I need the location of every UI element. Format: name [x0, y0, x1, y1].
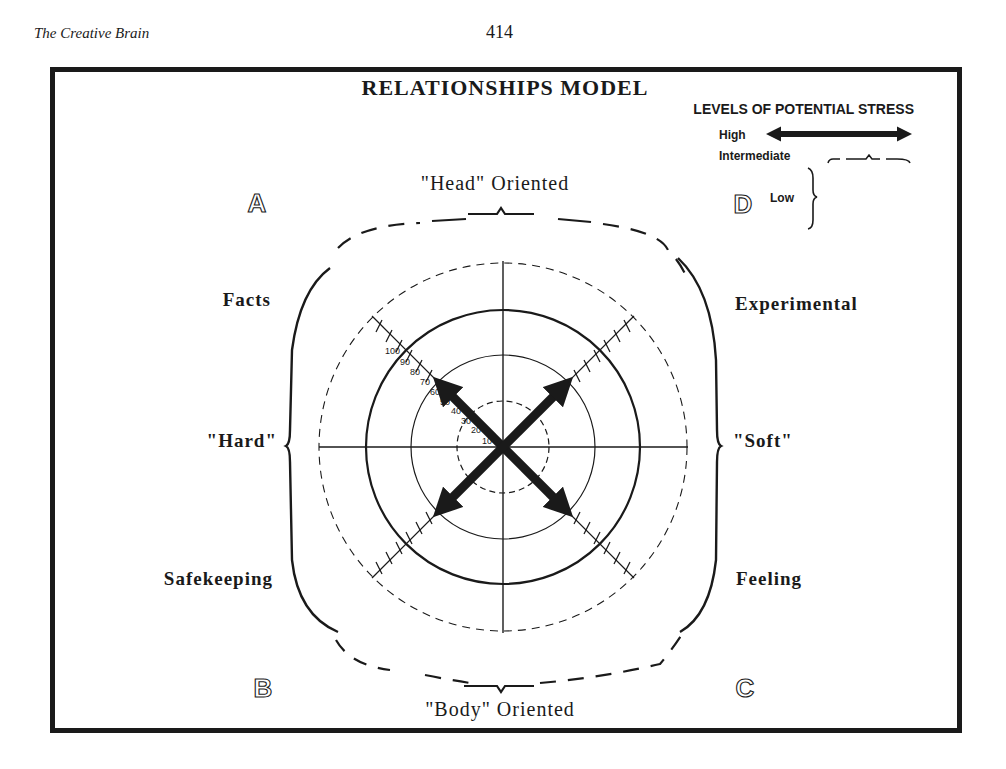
- scale-tick-100: 100: [385, 346, 400, 356]
- legend-low-brace-icon: [808, 168, 817, 229]
- label-experimental: Experimental: [735, 293, 858, 314]
- figure-title: RELATIONSHIPS MODEL: [362, 75, 649, 100]
- label-body-oriented: "Body" Oriented: [425, 698, 575, 721]
- scale-tick-90: 90: [400, 357, 410, 367]
- quadrant-letter-d: D: [734, 189, 753, 219]
- scale-numbers: 10 20 30 40 50 60 70 80 90 100: [385, 346, 492, 446]
- label-facts: Facts: [223, 289, 271, 310]
- relationships-model-figure: RELATIONSHIPS MODEL LEVELS OF POTENTIAL …: [0, 0, 1006, 769]
- legend-intermediate-brace-icon: [828, 155, 910, 163]
- legend-low-label: Low: [770, 191, 795, 205]
- label-hard: "Hard": [207, 430, 277, 451]
- quadrant-letter-a: A: [248, 188, 267, 218]
- scale-tick-70: 70: [420, 377, 430, 387]
- scale-tick-80: 80: [410, 367, 420, 377]
- quadrant-letter-c: C: [736, 673, 755, 703]
- stress-legend: LEVELS OF POTENTIAL STRESS High Intermed…: [693, 101, 914, 229]
- legend-title: LEVELS OF POTENTIAL STRESS: [693, 101, 914, 117]
- label-head-oriented: "Head" Oriented: [421, 172, 570, 194]
- quadrant-letter-b: B: [254, 673, 273, 703]
- legend-intermediate-label: Intermediate: [719, 149, 791, 163]
- label-soft: "Soft": [733, 430, 793, 451]
- legend-high-label: High: [719, 128, 746, 142]
- label-feeling: Feeling: [736, 568, 802, 589]
- label-safekeeping: Safekeeping: [164, 568, 273, 589]
